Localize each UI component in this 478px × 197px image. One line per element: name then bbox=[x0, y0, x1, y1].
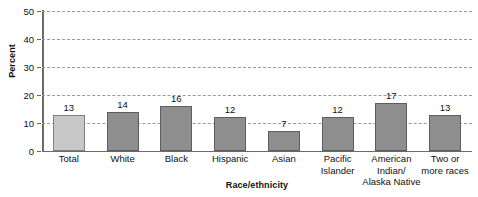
y-axis-tick bbox=[37, 95, 41, 96]
bar-chart-figure: Percent 01020304050 131416127121713 Tota… bbox=[0, 0, 478, 197]
bar-slot: 17 bbox=[365, 11, 419, 151]
bar bbox=[53, 115, 85, 151]
y-axis-tick bbox=[37, 151, 41, 152]
x-axis-tick-label-line: more races bbox=[414, 165, 476, 177]
y-axis-tick-label: 20 bbox=[23, 90, 34, 101]
bar bbox=[322, 117, 354, 151]
x-axis-tick-label-line: Asian bbox=[272, 153, 296, 164]
x-axis-tick-label: Hispanic bbox=[199, 153, 261, 165]
bar-slot: 14 bbox=[96, 11, 150, 151]
y-axis-tick-label: 50 bbox=[23, 6, 34, 17]
y-axis-tick-label: 30 bbox=[23, 62, 34, 73]
x-axis-tick-label: Asian bbox=[253, 153, 315, 165]
bar-slot: 12 bbox=[203, 11, 257, 151]
y-axis-tick-label: 40 bbox=[23, 34, 34, 45]
bars-layer: 131416127121713 bbox=[42, 11, 472, 151]
bar bbox=[107, 112, 139, 151]
x-axis-tick-label-line: Total bbox=[59, 153, 79, 164]
x-axis-tick-label: Total bbox=[38, 153, 100, 165]
y-axis-tick bbox=[37, 67, 41, 68]
y-axis-tick bbox=[37, 11, 41, 12]
bar-slot: 7 bbox=[257, 11, 311, 151]
bar-value-label: 13 bbox=[64, 102, 75, 113]
bar-value-label: 12 bbox=[332, 104, 343, 115]
x-axis-tick-label: PacificIslander bbox=[307, 153, 369, 176]
bar-slot: 13 bbox=[42, 11, 96, 151]
bar-slot: 12 bbox=[311, 11, 365, 151]
x-axis-tick-label-line: White bbox=[110, 153, 134, 164]
bar-value-label: 13 bbox=[440, 102, 451, 113]
x-axis-tick-label-line: Pacific bbox=[324, 153, 352, 164]
y-axis-tick bbox=[37, 123, 41, 124]
bar-value-label: 14 bbox=[117, 99, 128, 110]
bar bbox=[268, 131, 300, 151]
x-axis-tick-label-line: Islander bbox=[307, 165, 369, 177]
bar bbox=[160, 106, 192, 151]
bar-slot: 16 bbox=[150, 11, 204, 151]
bar bbox=[375, 103, 407, 151]
bar bbox=[214, 117, 246, 151]
bar-value-label: 16 bbox=[171, 93, 182, 104]
y-axis-tick-label: 0 bbox=[29, 146, 34, 157]
x-axis-tick-label: White bbox=[92, 153, 154, 165]
x-axis-tick-label-line: Hispanic bbox=[212, 153, 248, 164]
x-axis-spine bbox=[42, 151, 472, 152]
x-axis-tick-label-line: Two or bbox=[431, 153, 460, 164]
bar-value-label: 17 bbox=[386, 90, 397, 101]
y-axis-title: Percent bbox=[7, 31, 17, 91]
x-axis-tick-label: Two ormore races bbox=[414, 153, 476, 176]
x-axis-tick-label: Black bbox=[145, 153, 207, 165]
x-axis-tick-label-line: Black bbox=[165, 153, 188, 164]
bar-value-label: 7 bbox=[281, 118, 286, 129]
x-axis-tick-label-line: American Indian/ bbox=[371, 153, 411, 176]
x-axis-tick-labels: TotalWhiteBlackHispanicAsianPacificIslan… bbox=[42, 153, 472, 179]
y-axis-tick bbox=[37, 39, 41, 40]
bar-value-label: 12 bbox=[225, 104, 236, 115]
y-axis-tick-label: 10 bbox=[23, 118, 34, 129]
x-axis-title: Race/ethnicity bbox=[42, 180, 472, 190]
bar-slot: 13 bbox=[418, 11, 472, 151]
bar bbox=[429, 115, 461, 151]
